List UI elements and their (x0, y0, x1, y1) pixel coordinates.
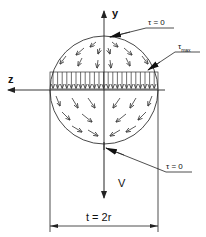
max-tau-subscript: max (181, 47, 190, 53)
bottom-tau-label: τ = 0 (166, 163, 183, 171)
diagram-canvas: y z V τ = 0 τmax τ = 0 t = 2r (0, 0, 206, 237)
z-axis-label: z (8, 74, 14, 85)
diagram-drawing (0, 0, 206, 237)
leader-top-tau (110, 28, 174, 37)
dimension-label: t = 2r (86, 212, 111, 223)
leader-max-tau (148, 52, 200, 70)
max-tau-label: τmax (178, 43, 191, 53)
y-axis-label: y (112, 8, 118, 19)
force-label: V (118, 178, 125, 189)
top-tau-label: τ = 0 (148, 19, 165, 27)
